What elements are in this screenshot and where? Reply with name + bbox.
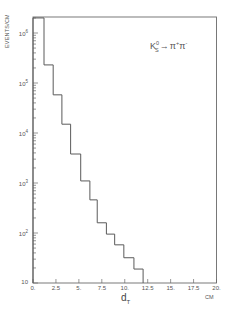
y-tick-label: 104: [8, 129, 28, 137]
x-tick-label: 17.5: [188, 285, 200, 291]
x-tick-label: 12.5: [142, 285, 154, 291]
x-axis-label-sub: T: [127, 299, 131, 305]
histogram-steps: [33, 18, 143, 283]
annot-particle-sup: 0: [156, 40, 159, 46]
y-tick-label: 105: [8, 79, 28, 87]
x-tick-label: 20.: [212, 285, 220, 291]
y-tick-label: 102: [8, 229, 28, 237]
x-tick-label: 7.5: [98, 285, 106, 291]
plot-frame: [33, 17, 217, 283]
annot-particle-sub: S: [155, 47, 159, 53]
x-axis-label: dT: [121, 292, 130, 305]
y-tick-label: 10: [8, 279, 28, 285]
x-tick-label: 15.: [166, 285, 174, 291]
arrow-icon: →: [160, 41, 169, 51]
annot-pion2-charge: -: [185, 40, 187, 46]
x-tick-label: 5.: [76, 285, 81, 291]
y-tick-label: 103: [8, 179, 28, 187]
x-tick-label: 2.5: [52, 285, 60, 291]
y-tick-label: 106: [8, 29, 28, 37]
x-tick-label: 0.: [30, 285, 35, 291]
x-axis-unit: CM: [205, 294, 214, 300]
x-tick-label: 10.: [121, 285, 129, 291]
histogram-plot: [0, 0, 233, 314]
decay-annotation: K0S→π+π-: [150, 40, 187, 53]
